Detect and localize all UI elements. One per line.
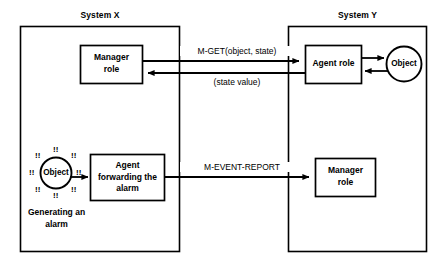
diagram-canvas: System X System Y Manager role Agent rol… [0, 0, 445, 271]
agent-forwarding-label: Agent forwarding the alarm [90, 160, 165, 195]
m-event-report-label: M-EVENT-REPORT [180, 162, 304, 172]
alarm-mark-se: !! [71, 186, 76, 194]
state-value-label: (state value) [189, 77, 285, 87]
manager-role-y-label: Manager role [315, 165, 376, 188]
alarm-mark-ne: !! [71, 152, 76, 160]
manager-role-x-label: Manager role [80, 52, 143, 75]
object-alarm-label: Object [38, 168, 74, 177]
object-y-label: Object [386, 59, 422, 68]
generating-alarm-caption: Generating an alarm [14, 207, 99, 230]
agent-role-y-label: Agent role [305, 58, 362, 70]
alarm-mark-sw: !! [35, 186, 40, 194]
alarm-mark-w: !! [29, 169, 34, 177]
system-x-title: System X [0, 10, 200, 20]
system-y-title: System Y [288, 10, 427, 20]
diagram-svg [0, 0, 445, 271]
m-get-label: M-GET(object, state) [180, 46, 294, 56]
alarm-mark-e: !! [76, 169, 81, 177]
alarm-mark-nw: !! [35, 152, 40, 160]
alarm-mark-s: !! [53, 192, 58, 200]
alarm-mark-n: !! [53, 146, 58, 154]
